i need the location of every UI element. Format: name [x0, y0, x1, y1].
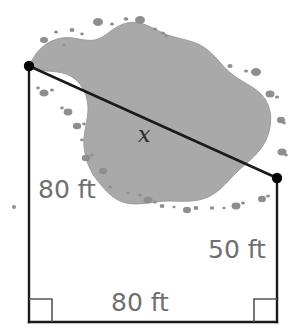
lake-distance-diagram: 80 ft 50 ft 80 ft x	[0, 0, 303, 335]
vertex-dot-right	[272, 173, 282, 183]
right-side-label: 50 ft	[208, 235, 266, 264]
left-side-label: 80 ft	[38, 175, 96, 204]
diagonal-label: x	[138, 122, 151, 147]
bottom-side-label: 80 ft	[111, 288, 169, 317]
vertex-dot-top-left	[24, 61, 34, 71]
